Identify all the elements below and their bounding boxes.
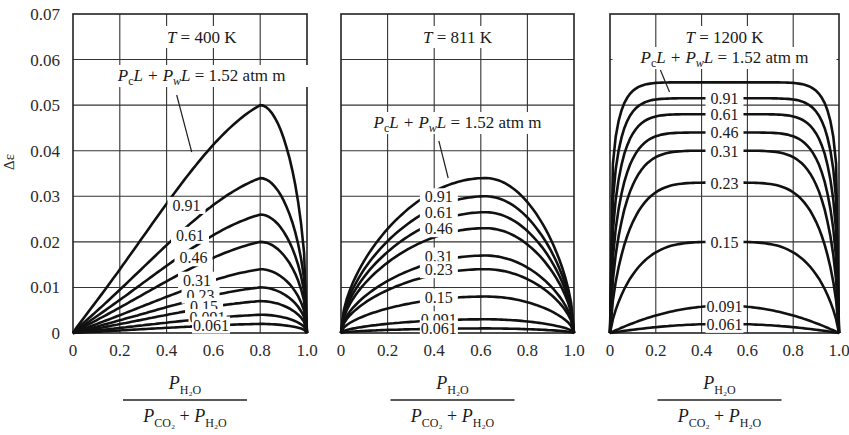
curve-label: 0.61 — [425, 204, 453, 221]
panel-title: T = 400 K — [167, 28, 237, 47]
y-axis-label: Δε — [1, 154, 17, 170]
curve-label: 0.91 — [172, 197, 200, 214]
parameter-label: PcL + PwL = 1.52 atm m — [373, 113, 542, 135]
x-axis-label-numerator: PH₂O — [435, 373, 469, 397]
chart-panel-3: 0.910.610.460.310.230.150.0910.061T = 12… — [606, 14, 849, 430]
x-tick-label: 0.2 — [645, 341, 666, 360]
curve-label: 0.91 — [711, 90, 739, 107]
x-tick-label: 0 — [606, 341, 615, 360]
x-tick-label: 0.8 — [783, 341, 804, 360]
y-tick-label: 0.05 — [30, 96, 60, 115]
panel-title: T = 1200 K — [685, 28, 764, 47]
x-tick-label: 0.6 — [203, 341, 224, 360]
curve-label: 0.061 — [421, 320, 457, 337]
emissivity-correction-chart-figure: 00.010.020.030.040.050.060.07Δε0.910.610… — [0, 0, 849, 435]
chart-svg: 00.010.020.030.040.050.060.07Δε0.910.610… — [0, 0, 849, 435]
leader-line — [177, 95, 192, 152]
x-tick-label: 0 — [69, 341, 78, 360]
y-tick-label: 0.03 — [30, 187, 60, 206]
curve-label: 0.091 — [707, 298, 743, 315]
x-axis-label-denominator: PCO₂ + PH₂O — [677, 406, 762, 430]
curve-label: 0.31 — [711, 143, 739, 160]
parameter-label: PcL + PwL = 1.52 atm m — [117, 66, 286, 88]
curve-label: 0.061 — [707, 316, 743, 333]
y-tick-label: 0.04 — [30, 142, 60, 161]
y-tick-label: 0.06 — [30, 51, 60, 70]
x-axis-label-numerator: PH₂O — [702, 373, 736, 397]
x-axis-label-denominator: PCO₂ + PH₂O — [142, 406, 227, 430]
x-tick-label: 0.8 — [250, 341, 271, 360]
curve-label: 0.23 — [425, 261, 453, 278]
chart-panel-2: 0.910.610.460.310.230.150.0910.061T = 81… — [337, 14, 585, 430]
y-tick-label: 0 — [52, 324, 61, 343]
x-tick-label: 0.6 — [737, 341, 758, 360]
curve-label: 0.46 — [180, 249, 208, 266]
x-tick-label: 0 — [337, 341, 346, 360]
chart-panel-1: 0.910.610.460.310.230.150.0910.061T = 40… — [69, 14, 318, 430]
x-tick-label: 0.4 — [691, 341, 713, 360]
x-tick-label: 0.4 — [156, 341, 178, 360]
x-axis-label-numerator: PH₂O — [168, 373, 202, 397]
x-tick-label: 0.6 — [470, 341, 491, 360]
y-tick-label: 0.01 — [30, 278, 60, 297]
curve-label: 0.061 — [193, 317, 229, 334]
leader-line — [660, 70, 669, 92]
x-tick-label: 0.2 — [377, 341, 398, 360]
x-tick-label: 0.2 — [109, 341, 130, 360]
y-tick-label: 0.02 — [30, 233, 60, 252]
x-tick-label: 1.0 — [563, 341, 584, 360]
curve-label: 0.61 — [176, 227, 204, 244]
curve-label: 0.46 — [711, 124, 739, 141]
x-tick-label: 1.0 — [828, 341, 849, 360]
curve-label: 0.23 — [711, 175, 739, 192]
curve-label: 0.91 — [425, 188, 453, 205]
parameter-label: PcL + PwL = 1.52 atm m — [640, 48, 809, 70]
x-tick-label: 1.0 — [296, 341, 317, 360]
x-tick-label: 0.8 — [517, 341, 538, 360]
x-axis-label-denominator: PCO₂ + PH₂O — [410, 406, 495, 430]
curve-label: 0.61 — [711, 106, 739, 123]
curve-label: 0.15 — [711, 234, 739, 251]
x-tick-label: 0.4 — [424, 341, 446, 360]
curve-label: 0.46 — [425, 220, 453, 237]
panel-title: T = 811 K — [423, 28, 493, 47]
leader-line — [439, 141, 448, 178]
curve-label: 0.15 — [425, 289, 453, 306]
y-tick-label: 0.07 — [30, 5, 60, 24]
